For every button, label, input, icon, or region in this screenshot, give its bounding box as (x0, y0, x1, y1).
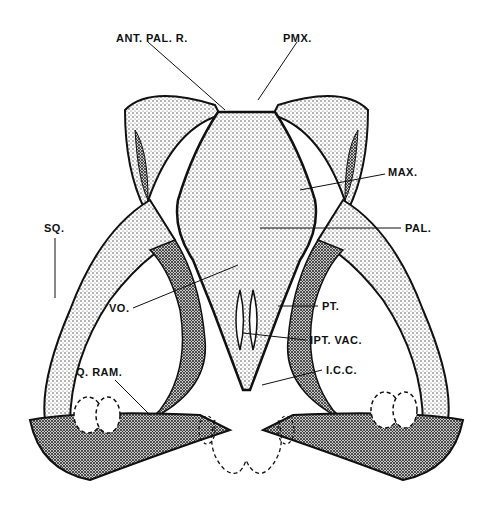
label-ipt-vac: IPT. VAC. (310, 334, 362, 346)
skull-illustration (0, 0, 493, 513)
label-pal: PAL. (405, 222, 431, 234)
label-max: MAX. (388, 166, 418, 178)
skull-diagram: ANT. PAL. R. PMX. MAX. PAL. SQ. VO. PT. … (0, 0, 493, 513)
label-icc: I.C.C. (326, 364, 357, 376)
label-pt: PT. (322, 300, 339, 312)
label-q-ram: Q. RAM. (76, 366, 122, 378)
label-pmx: PMX. (283, 32, 312, 44)
label-vo: VO. (109, 302, 129, 314)
label-ant-pal-r: ANT. PAL. R. (116, 32, 188, 44)
label-sq: SQ. (44, 222, 64, 234)
